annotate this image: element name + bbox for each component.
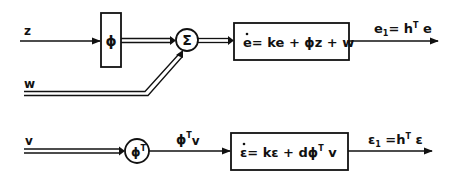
sum-to-system-double-line xyxy=(198,36,234,45)
dot-accent-icon xyxy=(243,143,246,146)
block-diagram: z ϕ Σ w e= ke + ϕz + w e1= hT e v xyxy=(0,0,461,182)
phiT-v-label: ϕTv xyxy=(176,131,200,148)
phi-block-label: ϕ xyxy=(105,33,116,49)
epsilon-dot-var: ε xyxy=(240,145,247,160)
z-label: z xyxy=(24,24,31,38)
e-dot-var: e xyxy=(243,35,252,50)
e1-output-label: e1= hT e xyxy=(374,21,432,38)
error-dynamics-equation: e= ke + ϕz + w xyxy=(243,35,354,50)
w-label: w xyxy=(24,77,35,91)
phi-to-sum-double-line xyxy=(121,36,176,45)
epsilon1-output-label: ε1 =hT ε xyxy=(368,132,423,149)
dot-accent-icon xyxy=(246,33,249,36)
v-label: v xyxy=(25,134,33,148)
sigma-icon: Σ xyxy=(182,32,192,48)
v-input-double-line xyxy=(24,147,125,156)
